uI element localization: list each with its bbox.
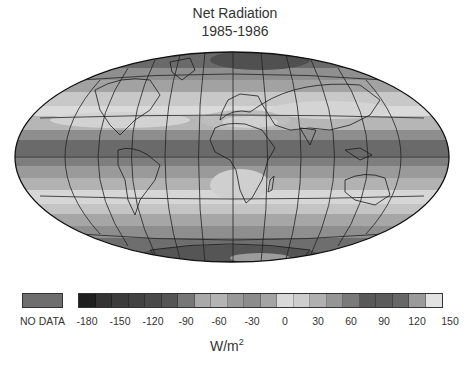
colorbar-tick-label: 90 — [378, 315, 390, 327]
no-data-swatch — [22, 293, 63, 308]
colorbar-bin — [310, 294, 327, 307]
colorbar-bin — [112, 294, 129, 307]
colorbar-bin — [343, 294, 360, 307]
colorbar-bin — [327, 294, 344, 307]
colorbar-tick-label: 0 — [282, 315, 288, 327]
colorbar-bin — [228, 294, 245, 307]
colorbar-bin — [162, 294, 179, 307]
colorbar-tick-label: -180 — [76, 315, 97, 327]
colorbar-bin — [393, 294, 410, 307]
colorbar-bin — [178, 294, 195, 307]
colorbar-tick-label: -120 — [142, 315, 163, 327]
colorbar-tick-label: -30 — [244, 315, 259, 327]
colorbar-bin — [195, 294, 212, 307]
colorbar-tick-label: 120 — [408, 315, 426, 327]
world-map — [0, 0, 470, 290]
colorbar-tick-label: -150 — [109, 315, 130, 327]
colorbar-bin — [96, 294, 113, 307]
colorbar-bin — [261, 294, 278, 307]
colorbar-tick-label: 30 — [312, 315, 324, 327]
colorbar-bin — [360, 294, 377, 307]
colorbar-bin — [129, 294, 146, 307]
colorbar-tick-label: -60 — [211, 315, 226, 327]
colorbar-tick-label: 60 — [345, 315, 357, 327]
colorbar-bin — [79, 294, 96, 307]
colorbar-bin — [277, 294, 294, 307]
colorbar-bin — [211, 294, 228, 307]
colorbar-bin — [409, 294, 426, 307]
colorbar-bin — [145, 294, 162, 307]
colorbar-tick-label: -90 — [178, 315, 193, 327]
colorbar — [78, 293, 443, 308]
no-data-label: NO DATA — [20, 315, 65, 327]
colorbar-bin — [244, 294, 261, 307]
colorbar-tick-label: 150 — [441, 315, 459, 327]
units-label: W/m2 — [210, 337, 244, 354]
colorbar-bin — [426, 294, 443, 307]
colorbar-bin — [376, 294, 393, 307]
colorbar-bin — [294, 294, 311, 307]
